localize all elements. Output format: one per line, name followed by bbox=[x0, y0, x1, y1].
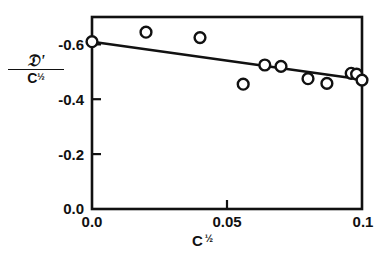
x-tick-label: 0.1 bbox=[333, 213, 381, 230]
fitted-line bbox=[92, 42, 362, 80]
data-point bbox=[322, 78, 333, 89]
x-axis-title-base: C bbox=[192, 232, 203, 249]
y-axis-title-denominator-exponent: ½ bbox=[37, 72, 45, 82]
data-point bbox=[357, 75, 368, 86]
data-point bbox=[87, 36, 98, 47]
y-axis-title-denominator-base: C bbox=[27, 70, 37, 86]
y-tick-label: -0.4 bbox=[22, 91, 84, 108]
data-markers bbox=[87, 27, 368, 90]
y-axis-title-denominator: C½ bbox=[8, 70, 64, 85]
data-point bbox=[195, 32, 206, 43]
x-tick-label: 0.0 bbox=[62, 213, 122, 230]
data-point bbox=[141, 27, 152, 38]
data-point bbox=[276, 61, 287, 72]
y-axis-title-numerator: 𝔇' bbox=[8, 52, 64, 70]
x-axis-title-exponent: ½ bbox=[205, 233, 213, 244]
x-axis-title: C½ bbox=[192, 232, 213, 249]
data-point bbox=[259, 60, 270, 71]
x-tick-label: 0.05 bbox=[197, 213, 257, 230]
y-tick-label: -0.2 bbox=[22, 146, 84, 163]
y-axis-title: 𝔇' C½ bbox=[8, 52, 64, 85]
plot-frame bbox=[92, 17, 362, 209]
chart-figure: -0.6 -0.4 -0.2 0.0 0.0 0.05 0.1 𝔇' C½ C½ bbox=[0, 0, 381, 263]
data-point bbox=[238, 79, 249, 90]
data-point bbox=[303, 73, 314, 84]
y-axis-ticks bbox=[92, 44, 101, 154]
